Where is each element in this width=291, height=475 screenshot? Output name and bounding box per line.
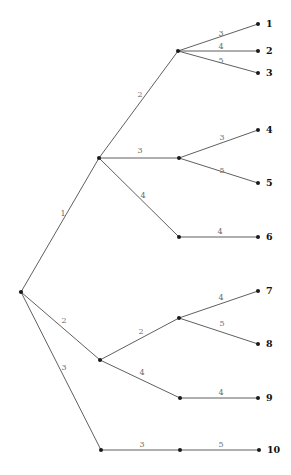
diagram-background [0,0,291,475]
tree-leaf-node [256,342,260,346]
tree-leaf-node [256,71,260,75]
tree-node [178,448,182,452]
edge-weight-label: 4 [218,42,223,51]
tree-node [19,290,23,294]
leaf-label: 3 [266,67,273,78]
leaf-label: 7 [266,285,273,296]
edge-weight-label: 3 [219,133,224,142]
leaf-label: 10 [267,444,281,455]
tree-leaf-node [256,396,260,400]
edge-weight-label: 5 [218,440,223,449]
edge-weight-label: 2 [61,316,66,325]
tree-node [176,49,180,53]
edge-weight-label: 2 [137,90,142,99]
edge-weight-label: 5 [219,319,224,328]
edge-weight-label: 3 [61,363,66,372]
edge-weight-label: 5 [219,166,224,175]
tree-node [178,396,182,400]
tree-leaf-node [256,49,260,53]
leaf-label: 4 [266,124,273,135]
leaf-label: 9 [266,392,273,403]
leaf-label: 1 [266,18,273,29]
tree-node [177,316,181,320]
edge-weight-label: 1 [60,209,65,218]
tree-leaf-node [256,181,260,185]
tree-node [97,156,101,160]
tree-leaf-node [256,128,260,132]
edge-weight-label: 3 [137,146,142,155]
tree-diagram: 1232343453542445435 12345678910 [0,0,291,475]
edge-weight-label: 4 [139,368,144,377]
edge-weight-label: 4 [140,191,145,200]
leaf-label: 8 [266,338,273,349]
tree-leaf-node [256,22,260,26]
edge-weight-label: 3 [139,440,144,449]
tree-node [98,358,102,362]
edge-weight-label: 3 [218,29,223,38]
edge-weight-label: 4 [218,293,223,302]
tree-leaf-node [256,235,260,239]
tree-node [99,448,103,452]
leaf-label: 2 [266,45,273,56]
leaf-label: 6 [266,231,273,242]
edge-weight-label: 4 [217,227,222,236]
leaf-label: 5 [266,177,273,188]
tree-leaf-node [256,289,260,293]
tree-leaf-node [257,448,261,452]
edge-weight-label: 5 [218,56,223,65]
tree-node [177,235,181,239]
edge-weight-label: 4 [218,388,223,397]
edge-weight-label: 2 [138,327,143,336]
tree-node [177,156,181,160]
